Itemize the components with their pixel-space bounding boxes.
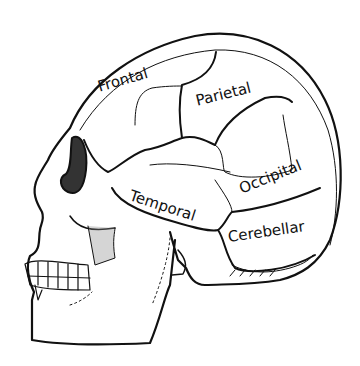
skull-diagram: Frontal Parietal Temporal Occipital Cere… [0,0,360,366]
skull-drawing [0,0,360,366]
eye-orbit [61,137,86,193]
teeth [25,261,90,300]
